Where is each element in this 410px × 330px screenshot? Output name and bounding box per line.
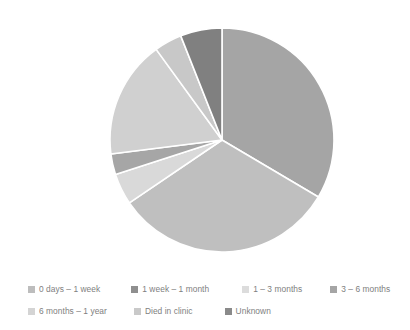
chart-plot-area	[0, 0, 410, 276]
legend-swatch-icon	[28, 308, 35, 315]
legend-item-label: Unknown	[236, 306, 271, 316]
legend-swatch-icon	[134, 308, 141, 315]
legend-item-label: 6 months – 1 year	[39, 306, 107, 316]
legend-swatch-icon	[28, 286, 35, 293]
legend-row-2: 6 months – 1 year Died in clinic Unknown	[0, 304, 410, 322]
legend-swatch-icon	[242, 286, 249, 293]
legend-item-label: 0 days – 1 week	[39, 284, 100, 294]
legend-item-0-days-1-week[interactable]: 0 days – 1 week	[28, 282, 100, 296]
legend-row-1: 0 days – 1 week 1 week – 1 month 1 – 3 m…	[0, 282, 410, 300]
legend-item-died-in-clinic[interactable]: Died in clinic	[134, 304, 193, 318]
chart-legend: 0 days – 1 week 1 week – 1 month 1 – 3 m…	[0, 278, 410, 330]
legend-item-label: 3 – 6 months	[341, 284, 390, 294]
legend-swatch-icon	[330, 286, 337, 293]
legend-item-label: 1 week – 1 month	[142, 284, 209, 294]
legend-item-label: Died in clinic	[145, 306, 193, 316]
legend-item-1-3-months[interactable]: 1 – 3 months	[242, 282, 302, 296]
legend-item-3-6-months[interactable]: 3 – 6 months	[330, 282, 390, 296]
pie-chart-figure: 0 days – 1 week 1 week – 1 month 1 – 3 m…	[0, 0, 410, 330]
pie-svg	[0, 0, 410, 276]
legend-item-label: 1 – 3 months	[253, 284, 302, 294]
legend-item-1-week-1-month[interactable]: 1 week – 1 month	[131, 282, 209, 296]
legend-swatch-icon	[225, 308, 232, 315]
legend-item-6-months-1-year[interactable]: 6 months – 1 year	[28, 304, 107, 318]
legend-swatch-icon	[131, 286, 138, 293]
pie-slice-group	[110, 28, 334, 252]
legend-item-unknown[interactable]: Unknown	[225, 304, 271, 318]
